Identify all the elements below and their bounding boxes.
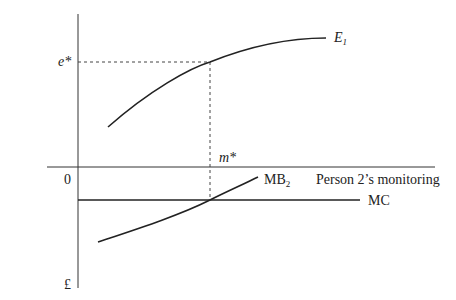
m-star-label: m* [219,151,236,165]
mb2-label-sub: 2 [286,179,291,189]
mb2-curve [98,177,258,242]
e1-label-name: E [334,30,343,45]
diagram-canvas: Person 1’s effort e* m* 0 £ E1 MB2 Perso… [0,0,456,300]
e-star-label: e* [58,55,71,69]
e1-label: E1 [334,31,347,47]
mb2-label: MB2 [264,173,290,189]
pound-label: £ [64,278,71,292]
origin-label: 0 [64,173,71,187]
mb2-label-name: MB [264,172,286,187]
e1-label-sub: 1 [343,37,348,47]
mc-label: MC [368,194,390,208]
x-axis-label: Person 2’s monitoring [316,173,440,187]
y-axis-label: Person 1’s effort [0,30,3,122]
e1-curve [108,38,326,127]
